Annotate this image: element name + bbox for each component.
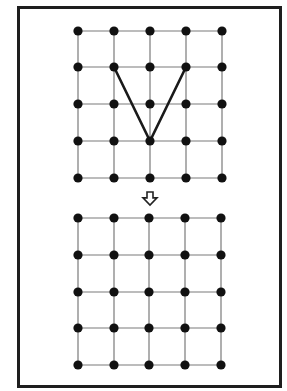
grid-dot [73, 62, 82, 71]
grid-dot [217, 62, 226, 71]
down-arrow-icon [143, 192, 157, 205]
grid-dot [217, 136, 226, 145]
grid-dot [217, 173, 226, 182]
grid-dot [216, 360, 225, 369]
grid-dot [144, 323, 153, 332]
grid-dot [181, 62, 190, 71]
grid-dot [217, 99, 226, 108]
grid-dot [216, 323, 225, 332]
grid-dot [73, 136, 82, 145]
bottom-dot-grid [73, 213, 225, 369]
grid-dot [145, 62, 154, 71]
grid-dot [145, 99, 154, 108]
grid-dot [216, 213, 225, 222]
grid-dot [73, 287, 82, 296]
grid-dot [180, 287, 189, 296]
grid-dot [73, 213, 82, 222]
arrow-shape [143, 192, 157, 205]
grid-dot [216, 287, 225, 296]
grid-dot [144, 213, 153, 222]
grid-dot [180, 250, 189, 259]
grid-dot [145, 136, 154, 145]
grid-dot [216, 250, 225, 259]
grid-dot [180, 213, 189, 222]
grid-dot [181, 136, 190, 145]
grid-dot [180, 360, 189, 369]
grid-dot [181, 99, 190, 108]
grid-dot [73, 99, 82, 108]
grid-dot [145, 26, 154, 35]
grid-dot [73, 250, 82, 259]
grid-dot [109, 99, 118, 108]
grid-dot [73, 173, 82, 182]
grid-dot [144, 287, 153, 296]
grid-dot [109, 360, 118, 369]
grid-dot [109, 250, 118, 259]
grid-dot [73, 360, 82, 369]
grid-dot [109, 213, 118, 222]
grid-dot [109, 173, 118, 182]
grid-dot [181, 26, 190, 35]
grid-dot [109, 323, 118, 332]
grid-dot [109, 62, 118, 71]
grid-dot [180, 323, 189, 332]
top-dot-grid [73, 26, 226, 182]
grid-dot [109, 26, 118, 35]
grid-dot [145, 173, 154, 182]
grid-dot [73, 26, 82, 35]
grid-dot [144, 360, 153, 369]
grid-dot [181, 173, 190, 182]
grid-dot [217, 26, 226, 35]
grid-dot [73, 323, 82, 332]
diagram-canvas [0, 0, 287, 391]
grid-dot [109, 136, 118, 145]
grid-dot [144, 250, 153, 259]
grid-dot [109, 287, 118, 296]
